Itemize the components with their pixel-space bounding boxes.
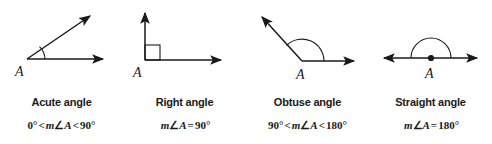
obtuse-angle-title: Obtuse angle [246,96,369,108]
acute-upper-bound: 90° [80,119,95,131]
obtuse-angle-drawing: A [246,0,369,92]
right-measure-var: A [179,119,186,131]
acute-ray-upper [27,16,90,59]
straight-op-2: = [430,119,438,131]
obtuse-upper-bound: 180° [326,119,347,131]
right-angle-symbol: ∠ [169,119,179,131]
acute-angle-formula: 0°<m∠A<90° [0,119,123,132]
straight-angle-formula: m∠A=180° [369,119,492,132]
straight-vertex-label: A [424,66,434,81]
straight-measure-m: m [404,119,413,131]
angle-panel-obtuse: A Obtuse angle 90°<m∠A<180° [246,0,369,144]
acute-angle-symbol: ∠ [54,119,64,131]
acute-op-2: < [72,119,80,131]
types-of-angles-diagram: A Acute angle 0°<m∠A<90° A [0,0,492,144]
right-op-2: = [187,119,195,131]
straight-measure-var: A [423,119,430,131]
obtuse-ray-upper-left [262,17,302,61]
straight-angle-symbol: ∠ [413,119,423,131]
obtuse-op-1: < [284,119,292,131]
obtuse-measure-var: A [310,119,317,131]
angle-panel-acute: A Acute angle 0°<m∠A<90° [0,0,123,144]
obtuse-lower-bound: 90° [268,119,283,131]
straight-angle-drawing: A [369,0,492,92]
acute-angle-drawing: A [0,0,123,92]
obtuse-op-2: < [318,119,326,131]
straight-vertex-dot [428,55,434,61]
obtuse-vertex-label: A [295,67,305,82]
straight-upper-bound: 180° [438,119,459,131]
angle-panel-straight: A Straight angle m∠A=180° [369,0,492,144]
obtuse-angle-formula: 90°<m∠A<180° [246,119,369,132]
acute-op-1: < [38,119,46,131]
acute-angle-title: Acute angle [0,96,123,108]
acute-measure-var: A [64,119,71,131]
right-angle-title: Right angle [123,96,246,108]
right-vertex-label: A [132,65,142,80]
obtuse-angle-symbol: ∠ [300,119,310,131]
angle-panel-right: A Right angle m∠A=90° [123,0,246,144]
right-angle-square-marker [145,45,160,60]
right-angle-formula: m∠A=90° [123,119,246,132]
acute-lower-bound: 0° [28,119,38,131]
acute-vertex-label: A [14,64,24,79]
right-angle-drawing: A [123,0,246,92]
straight-angle-title: Straight angle [369,96,492,108]
right-upper-bound: 90° [195,119,210,131]
right-measure-m: m [161,119,170,131]
